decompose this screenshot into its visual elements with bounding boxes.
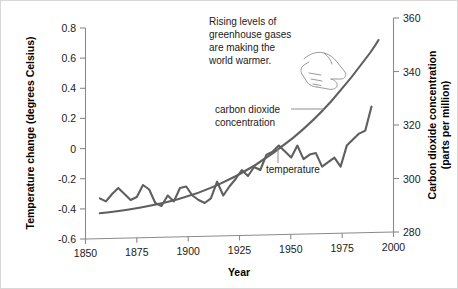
left-y-axis: 0.8 0.6 0.4 0.2 0 -0.2 -0.4 -0.6 Tempera… <box>24 22 86 245</box>
x-axis: 1850 1875 1900 1925 1950 1975 2000 Year <box>74 232 406 278</box>
callout-line-1: Rising levels of <box>209 16 276 27</box>
callout-line-3: are making the <box>209 42 276 53</box>
right-tick-label-340: 340 <box>403 66 421 78</box>
x-tick-label-1950: 1950 <box>279 243 303 255</box>
left-tick-label--0.2: -0.2 <box>58 173 76 185</box>
x-tick-label-1975: 1975 <box>331 242 355 254</box>
x-tick-label-1875: 1875 <box>125 246 149 258</box>
pointing-hand-icon <box>301 52 346 89</box>
co2-label-line-2: concentration <box>215 117 275 128</box>
chart-canvas: 0.8 0.6 0.4 0.2 0 -0.2 -0.4 -0.6 Tempera… <box>1 1 458 289</box>
right-y-axis: 360 340 320 300 280 Carbon dioxide conce… <box>394 12 452 238</box>
left-tick-label-0.6: 0.6 <box>61 52 76 64</box>
callout-line-4: world warmer. <box>208 55 271 66</box>
left-tick-label-0.2: 0.2 <box>61 112 76 124</box>
climate-chart-figure: 0.8 0.6 0.4 0.2 0 -0.2 -0.4 -0.6 Tempera… <box>0 0 458 289</box>
right-tick-label-300: 300 <box>403 173 421 185</box>
left-tick-label-0.8: 0.8 <box>61 22 76 34</box>
x-tick-label-2000: 2000 <box>382 241 406 253</box>
x-tick-label-1850: 1850 <box>74 247 98 259</box>
callout-line-2: greenhouse gases <box>209 29 291 40</box>
greenhouse-callout: Rising levels of greenhouse gases are ma… <box>208 16 346 89</box>
left-tick-label-0.4: 0.4 <box>61 82 76 94</box>
temperature-label-text: temperature <box>266 164 320 175</box>
left-tick-label--0.4: -0.4 <box>58 203 76 215</box>
right-tick-label-320: 320 <box>403 119 421 131</box>
left-tick-label-0: 0 <box>70 143 76 155</box>
co2-label-line-1: carbon dioxide <box>215 104 280 115</box>
left-axis-title: Temperature change (degrees Celsius) <box>24 37 36 230</box>
x-tick-label-1925: 1925 <box>228 244 252 256</box>
right-axis-title: Carbon dioxide concentration(parts per m… <box>426 51 451 200</box>
left-tick-label--0.6: -0.6 <box>58 233 76 245</box>
x-axis-title: Year <box>228 266 250 278</box>
right-tick-label-360: 360 <box>403 12 421 24</box>
x-tick-label-1900: 1900 <box>177 245 201 257</box>
right-tick-label-280: 280 <box>403 226 421 238</box>
